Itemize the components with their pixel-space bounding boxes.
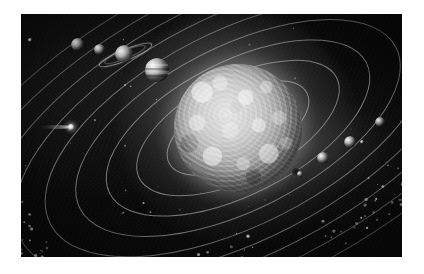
planet-neptune <box>71 38 84 51</box>
planet-earth <box>344 136 356 148</box>
sun <box>174 64 302 192</box>
screenshot-canvas <box>0 0 424 274</box>
planet-jupiter <box>145 58 169 82</box>
planet-globe <box>71 38 84 51</box>
planet-globe <box>145 58 169 82</box>
planet-globe <box>344 136 356 148</box>
planet-globe <box>317 152 329 164</box>
planet-saturn <box>115 45 133 63</box>
jupiter-band <box>145 75 169 77</box>
comet-tail <box>41 125 71 128</box>
jupiter-band <box>145 71 169 73</box>
planet-globe <box>28 38 32 42</box>
planet-globe <box>115 45 133 63</box>
planet-globe <box>94 44 105 55</box>
sun-surface-mottling <box>174 64 302 192</box>
planet-venus <box>317 152 329 164</box>
planet-globe <box>375 117 385 127</box>
planet-pluto <box>28 38 32 42</box>
jupiter-band <box>145 68 169 70</box>
planet-uranus <box>94 44 105 55</box>
jupiter-band <box>145 64 169 66</box>
solar-system-illustration <box>21 14 402 257</box>
planet-mars <box>375 117 385 127</box>
